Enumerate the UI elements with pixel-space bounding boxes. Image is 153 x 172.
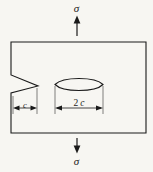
dimension-label-edge-crack: c [17, 101, 33, 110]
arrow-right-icon [96, 105, 103, 110]
crack-geometry-figure: σ c 2 c σ [0, 0, 153, 172]
dimension-label-internal-crack-symbol: c [80, 98, 84, 108]
stress-label-top: σ [0, 3, 153, 14]
stress-label-bottom: σ [0, 156, 153, 167]
plate-outline [11, 42, 146, 133]
dimension-label-internal-crack-number: 2 [74, 98, 79, 108]
figure-drawing-canvas [0, 0, 153, 172]
internal-crack-lens [55, 79, 103, 91]
arrow-left-icon [55, 105, 62, 110]
arrow-down-icon [74, 138, 81, 154]
dimension-label-internal-crack: 2 c [64, 99, 94, 109]
arrow-up-icon [74, 16, 81, 37]
